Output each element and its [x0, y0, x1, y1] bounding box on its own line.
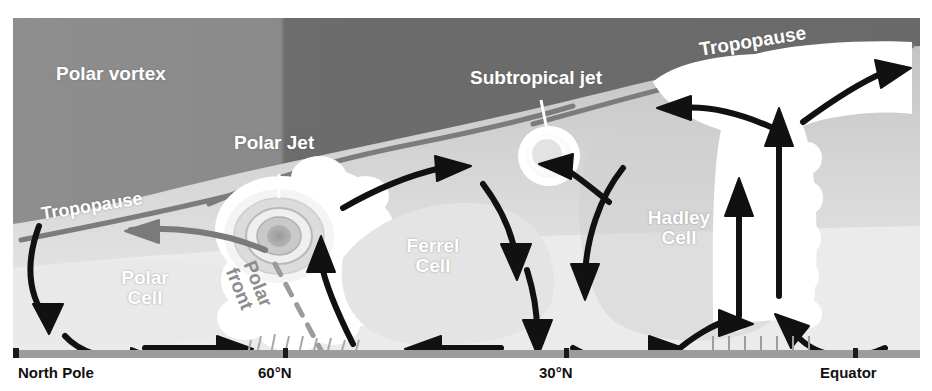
ferrel-cell-line-2: Cell	[374, 256, 492, 276]
axis-label-60n: 60°N	[258, 364, 292, 381]
polar-cell-line-1: Polar	[86, 268, 204, 288]
ground-surface-bar	[13, 350, 920, 358]
axis-label-north-pole: North Pole	[18, 364, 94, 381]
hadley-cell-line-1: Hadley	[620, 208, 738, 228]
label-hadley-cell: Hadley Cell	[620, 208, 738, 248]
label-polar-jet: Polar Jet	[234, 133, 314, 153]
label-polar-cell: Polar Cell	[86, 268, 204, 308]
polar-cell-line-2: Cell	[86, 288, 204, 308]
hadley-cell-line-2: Cell	[620, 228, 738, 248]
label-polar-vortex: Polar vortex	[56, 64, 166, 84]
axis-label-30n: 30°N	[539, 364, 573, 381]
diagram-stage: Polar vortex Tropopause Tropopause Polar…	[0, 0, 932, 391]
label-subtropical-jet: Subtropical jet	[470, 68, 602, 88]
label-ferrel-cell: Ferrel Cell	[374, 236, 492, 276]
ferrel-cell-line-1: Ferrel	[374, 236, 492, 256]
axis-label-equator: Equator	[820, 364, 877, 381]
